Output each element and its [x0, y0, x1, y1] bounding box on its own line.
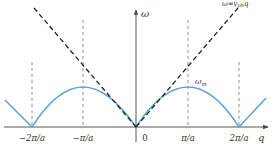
tick-neg-pi-a: −π/a: [73, 133, 94, 143]
asymptote-left: [34, 8, 136, 127]
max-frequency-label: ωm: [195, 77, 207, 87]
tick-pi-a: π/a: [180, 133, 195, 143]
asymptote-right: [136, 8, 238, 127]
tick-labels: −2π/a −π/a 0 π/a 2π/a: [19, 133, 249, 143]
tick-neg-2pi-a: −2π/a: [19, 133, 45, 143]
y-axis-label: ω: [141, 8, 149, 19]
asymptote-label: ω=vphq: [222, 0, 249, 9]
tick-zero: 0: [142, 133, 147, 143]
x-axis-label: q: [258, 132, 264, 143]
tick-2pi-a: 2π/a: [229, 133, 249, 143]
dispersion-diagram: ω q ω=vphq ωm −2π/a −π/a 0 π/a 2π/a: [0, 0, 278, 152]
dispersion-curve: [5, 87, 266, 127]
guide-lines: [32, 20, 239, 127]
